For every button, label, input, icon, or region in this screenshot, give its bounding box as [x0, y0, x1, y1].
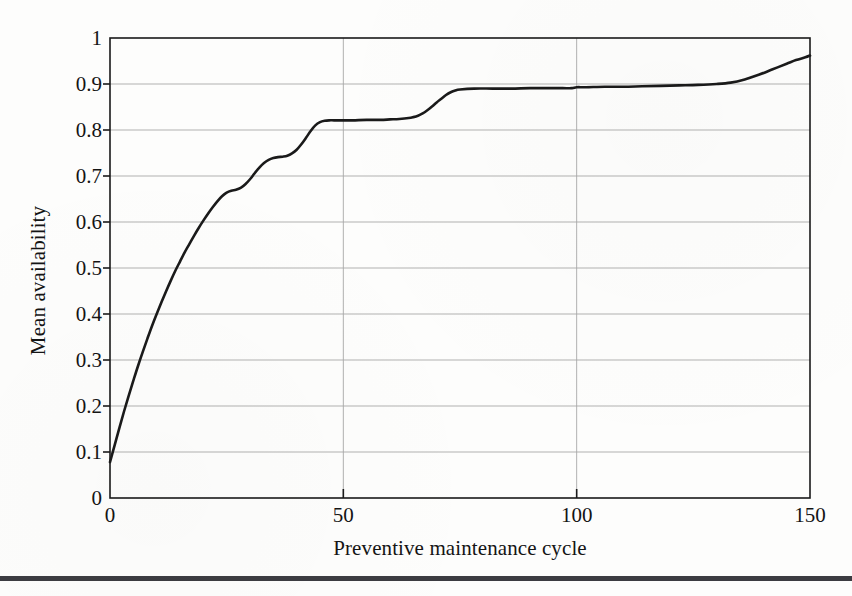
data-series-line: [110, 55, 810, 462]
y-axis-tick-labels: 00.10.20.30.40.50.60.70.80.91: [46, 38, 102, 498]
y-tick-label: 0.2: [56, 396, 102, 417]
y-tick-label: 0.5: [56, 258, 102, 279]
y-tick-label: 0: [56, 488, 102, 509]
x-tick-label: 0: [105, 505, 116, 526]
y-axis-title: Mean availability: [26, 131, 51, 431]
x-axis-tick-labels: 050100150: [110, 505, 810, 535]
y-tick-label: 0.4: [56, 304, 102, 325]
axis-ticks: [103, 84, 577, 498]
y-tick-label: 0.9: [56, 74, 102, 95]
x-tick-label: 50: [333, 505, 354, 526]
y-tick-label: 0.8: [56, 120, 102, 141]
y-tick-label: 1: [56, 28, 102, 49]
y-tick-label: 0.3: [56, 350, 102, 371]
x-tick-label: 150: [794, 505, 826, 526]
gridlines: [110, 38, 810, 498]
x-tick-label: 100: [561, 505, 593, 526]
y-tick-label: 0.7: [56, 166, 102, 187]
x-axis-title: Preventive maintenance cycle: [110, 536, 810, 561]
y-tick-label: 0.1: [56, 442, 102, 463]
y-tick-label: 0.6: [56, 212, 102, 233]
figure-container: 00.10.20.30.40.50.60.70.80.91 050100150 …: [0, 0, 852, 596]
page-footer-rule: [0, 576, 852, 581]
